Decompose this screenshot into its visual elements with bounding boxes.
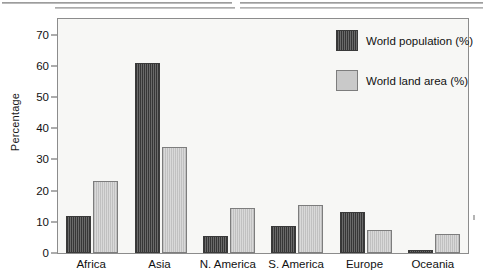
legend-label-2: World land area (%) [366, 75, 468, 87]
y-axis-tick-mark [51, 97, 57, 98]
bar-asia-series-2 [162, 147, 187, 253]
legend-swatch-2 [336, 70, 358, 91]
scan-rule-top-right [240, 2, 483, 4]
bar-oceania-series-2 [435, 234, 460, 253]
legend-swatch-1 [336, 30, 358, 51]
y-axis-tick-mark [51, 128, 57, 129]
x-axis-label-oceania: Oceania [373, 258, 485, 270]
bar-n-america-series-1 [203, 236, 228, 253]
y-axis-tick-mark [51, 34, 57, 35]
legend-item-2: World land area (%) [336, 70, 473, 91]
bar-chart: Percentage 010203040506070 AfricaAsiaN. … [0, 12, 485, 272]
bar-africa-series-1 [66, 216, 91, 253]
scan-speck [473, 215, 475, 220]
bar-europe-series-2 [367, 230, 392, 253]
bar-s-america-series-2 [298, 205, 323, 253]
legend-label-1: World population (%) [366, 35, 473, 47]
bar-africa-series-2 [93, 181, 118, 253]
bar-s-america-series-1 [271, 226, 296, 253]
y-axis-tick-mark [51, 253, 57, 254]
y-axis-tick-mark [51, 65, 57, 66]
scan-rule-second-left [55, 7, 235, 9]
legend-item-1: World population (%) [336, 30, 473, 51]
y-axis-tick-mark [51, 221, 57, 222]
chart-legend: World population (%)World land area (%) [336, 30, 473, 110]
scan-rule-second-right [240, 7, 483, 9]
y-axis-tick-mark [51, 159, 57, 160]
y-axis-title: Percentage [9, 62, 21, 182]
scan-rule-top-left [2, 2, 232, 4]
bar-n-america-series-2 [230, 208, 255, 253]
bar-europe-series-1 [340, 212, 365, 253]
bar-oceania-series-1 [408, 250, 433, 253]
y-axis-tick-mark [51, 190, 57, 191]
bar-asia-series-1 [135, 63, 160, 253]
scan-artifact-rules [0, 0, 485, 12]
